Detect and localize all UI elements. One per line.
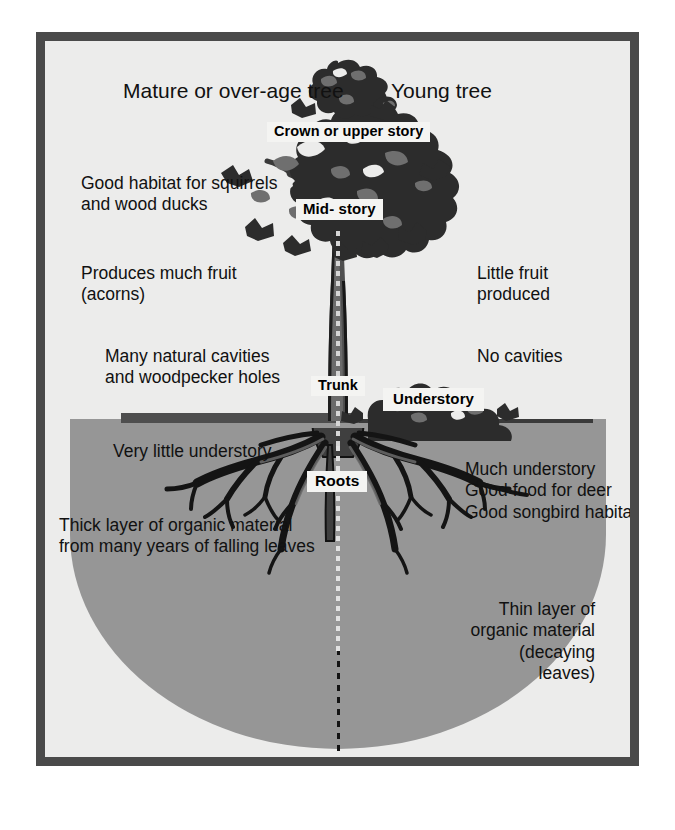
note-thin-organic-layer: Thin layer of organic material (decaying… xyxy=(427,599,595,684)
note-habitat-squirrels: Good habitat for squirrels and wood duck… xyxy=(81,173,278,216)
diagram-frame: Mature or over-age tree Young tree Crown… xyxy=(36,32,639,766)
diagram-canvas: Mature or over-age tree Young tree Crown… xyxy=(45,41,630,757)
label-roots: Roots xyxy=(307,471,367,492)
note-produces-fruit: Produces much fruit (acorns) xyxy=(81,263,237,306)
label-trunk: Trunk xyxy=(311,376,365,396)
center-divider-trunk xyxy=(336,231,340,446)
note-little-understory: Very little understory xyxy=(113,441,272,462)
label-midstory: Mid- story xyxy=(296,199,383,220)
note-cavities: Many natural cavities and woodpecker hol… xyxy=(105,346,280,389)
label-understory: Understory xyxy=(383,388,484,411)
diagram-page: Mature or over-age tree Young tree Crown… xyxy=(0,0,675,830)
header-young-tree: Young tree xyxy=(391,79,492,103)
note-thick-organic-layer: Thick layer of organic material from man… xyxy=(59,515,315,558)
note-no-cavities: No cavities xyxy=(477,346,563,367)
header-mature-tree: Mature or over-age tree xyxy=(123,79,344,103)
label-crown: Crown or upper story xyxy=(267,122,430,142)
note-little-fruit: Little fruit produced xyxy=(477,263,550,306)
note-much-understory: Much understory Good food for deer Good … xyxy=(465,459,630,523)
